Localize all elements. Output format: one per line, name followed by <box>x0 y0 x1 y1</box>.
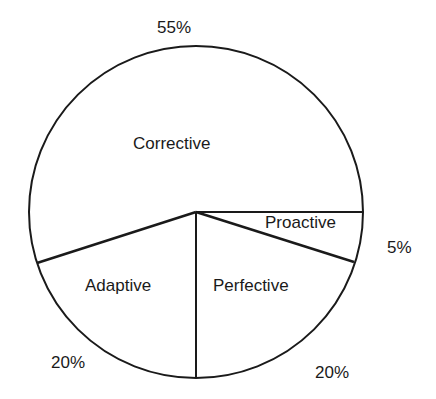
slice-label-proactive: Proactive <box>265 213 336 233</box>
percent-label-adaptive: 20% <box>51 353 85 373</box>
percent-label-corrective: 55% <box>157 18 191 38</box>
slice-label-adaptive: Adaptive <box>85 276 151 296</box>
percent-label-perfective: 20% <box>315 363 349 383</box>
slice-label-perfective: Perfective <box>213 276 289 296</box>
percent-label-proactive: 5% <box>387 238 412 258</box>
pie-chart <box>0 0 436 399</box>
slice-label-corrective: Corrective <box>133 134 210 154</box>
